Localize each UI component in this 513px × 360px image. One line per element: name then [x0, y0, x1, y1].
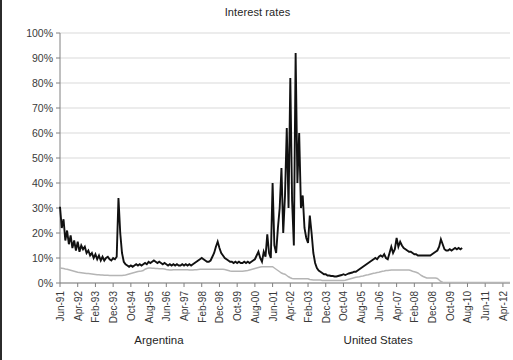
svg-text:100%: 100% [26, 27, 53, 39]
svg-text:Dec-03: Dec-03 [321, 291, 332, 324]
svg-text:50%: 50% [32, 152, 53, 164]
svg-text:Aug-95: Aug-95 [144, 291, 155, 324]
svg-text:Oct-99: Oct-99 [232, 291, 243, 321]
svg-text:70%: 70% [32, 102, 53, 114]
svg-text:Jun-96: Jun-96 [161, 291, 172, 322]
svg-text:20%: 20% [32, 227, 53, 239]
svg-text:Feb-98: Feb-98 [197, 291, 208, 323]
chart-plot-area: 0%10%20%30%40%50%60%70%80%90%100% Jun-91… [2, 0, 513, 330]
svg-text:Aug-00: Aug-00 [250, 291, 261, 324]
svg-text:Jun-06: Jun-06 [374, 291, 385, 322]
svg-text:Feb-08: Feb-08 [409, 291, 420, 323]
svg-text:Apr-02: Apr-02 [285, 291, 296, 321]
interest-rates-chart-figure: Interest rates 0%10%20%30%40%50%60%70%80… [0, 0, 513, 360]
svg-text:Jun-01: Jun-01 [268, 291, 279, 322]
svg-text:Dec-93: Dec-93 [108, 291, 119, 324]
svg-text:Apr-07: Apr-07 [392, 291, 403, 321]
svg-text:30%: 30% [32, 202, 53, 214]
svg-text:Oct-04: Oct-04 [338, 291, 349, 321]
legend-entry-united-states: United States [312, 334, 413, 346]
svg-text:80%: 80% [32, 77, 53, 89]
svg-text:Aug-05: Aug-05 [356, 291, 367, 324]
svg-text:Jun-11: Jun-11 [480, 291, 491, 321]
y-axis: 0%10%20%30%40%50%60%70%80%90%100% [26, 27, 60, 289]
svg-text:Feb-03: Feb-03 [303, 291, 314, 323]
svg-text:Apr-97: Apr-97 [179, 291, 190, 321]
legend-entry-argentina: Argentina [102, 334, 183, 346]
svg-text:40%: 40% [32, 177, 53, 189]
chart-legend: Argentina United States [2, 334, 513, 346]
svg-text:10%: 10% [32, 252, 53, 264]
legend-label-united-states: United States [344, 334, 413, 346]
svg-text:Oct-09: Oct-09 [445, 291, 456, 321]
legend-label-argentina: Argentina [134, 334, 183, 346]
svg-text:Dec-08: Dec-08 [427, 291, 438, 324]
svg-text:Feb-93: Feb-93 [90, 291, 101, 323]
svg-text:Aug-10: Aug-10 [462, 291, 473, 324]
svg-text:90%: 90% [32, 52, 53, 64]
data-series [60, 53, 510, 283]
svg-text:0%: 0% [38, 277, 53, 289]
x-axis: Jun-91Apr-92Feb-93Dec-93Oct-94Aug-95Jun-… [55, 283, 510, 323]
svg-text:Dec-98: Dec-98 [214, 291, 225, 324]
svg-text:Jun-91: Jun-91 [55, 291, 66, 322]
svg-text:60%: 60% [32, 127, 53, 139]
svg-text:Apr-92: Apr-92 [73, 291, 84, 321]
svg-text:Apr-12: Apr-12 [498, 291, 509, 321]
svg-text:Oct-94: Oct-94 [126, 291, 137, 321]
